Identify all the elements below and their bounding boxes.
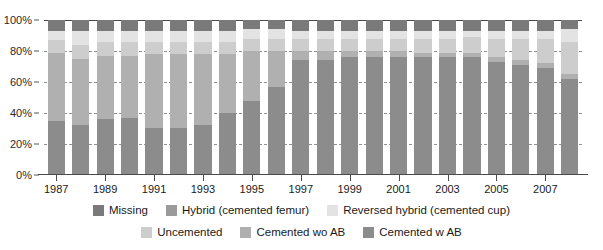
y-tick-mark: [34, 113, 39, 114]
bar-column: [170, 20, 187, 175]
y-tick-label: 40%: [10, 108, 32, 119]
bars-container: [44, 20, 582, 175]
bar-column: [268, 20, 285, 175]
x-tick-label: 1995: [240, 183, 264, 195]
bar-segment: [561, 29, 578, 41]
legend-row: MissingHybrid (cemented femur)Reversed h…: [0, 199, 603, 221]
bar-segment: [243, 39, 260, 51]
bar-column: [145, 20, 162, 175]
bar-segment: [414, 57, 431, 175]
bar-segment: [48, 40, 65, 52]
bar-segment: [243, 101, 260, 175]
legend-label: Missing: [109, 204, 148, 216]
bar-segment: [537, 68, 554, 175]
bar-segment: [243, 29, 260, 38]
bar-segment: [219, 113, 236, 175]
x-tick-mark: [301, 175, 302, 181]
bar-segment: [366, 57, 383, 175]
x-tick-mark: [154, 175, 155, 181]
bar-segment: [390, 57, 407, 175]
legend-item[interactable]: Uncemented: [141, 226, 222, 238]
bar-column: [121, 20, 138, 175]
x-tick-mark: [350, 175, 351, 181]
x-tick-label: 1989: [93, 183, 117, 195]
bar-segment: [170, 54, 187, 128]
bar-column: [439, 20, 456, 175]
bar-segment: [537, 39, 554, 64]
bar-segment: [463, 20, 480, 31]
bar-segment: [48, 31, 65, 40]
bar-segment: [414, 20, 431, 31]
bar-segment: [414, 31, 431, 39]
bar-column: [219, 20, 236, 175]
bar-segment: [97, 31, 114, 42]
x-tick-label: 2005: [484, 183, 508, 195]
bar-segment: [194, 31, 211, 42]
bar-column: [488, 20, 505, 175]
x-tick-label: 1987: [44, 183, 68, 195]
bar-segment: [341, 20, 358, 31]
x-tick-mark: [252, 175, 253, 181]
bar-segment: [268, 51, 285, 87]
legend-swatch-icon: [166, 205, 177, 216]
bar-segment: [439, 31, 456, 39]
x-axis: 1987198919911993199519971999200120032005…: [44, 175, 582, 201]
y-tick-mark: [34, 51, 39, 52]
bar-segment: [145, 54, 162, 128]
plot-area: [44, 20, 582, 175]
bar-segment: [243, 20, 260, 29]
bar-segment: [292, 60, 309, 175]
x-tick-mark: [496, 175, 497, 181]
x-tick-mark: [203, 175, 204, 181]
bar-segment: [145, 20, 162, 31]
bar-column: [194, 20, 211, 175]
bar-segment: [512, 39, 529, 61]
x-tick-mark: [545, 175, 546, 181]
legend-item[interactable]: Missing: [93, 204, 148, 216]
bar-segment: [268, 20, 285, 29]
bar-segment: [121, 31, 138, 42]
bar-segment: [145, 128, 162, 175]
y-tick-mark: [34, 82, 39, 83]
bar-segment: [414, 39, 431, 53]
x-tick-mark: [399, 175, 400, 181]
legend-item[interactable]: Reversed hybrid (cemented cup): [327, 204, 510, 216]
bar-segment: [97, 20, 114, 31]
bar-segment: [366, 39, 383, 51]
bar-column: [48, 20, 65, 175]
bar-segment: [561, 42, 578, 75]
bar-segment: [561, 20, 578, 29]
bar-column: [341, 20, 358, 175]
bar-segment: [219, 54, 236, 113]
bar-segment: [121, 20, 138, 31]
x-tick-mark: [56, 175, 57, 181]
bar-column: [97, 20, 114, 175]
x-tick-label: 1999: [337, 183, 361, 195]
bar-segment: [219, 31, 236, 42]
bar-segment: [194, 42, 211, 54]
bar-segment: [463, 37, 480, 53]
bar-segment: [317, 39, 334, 51]
legend-item[interactable]: Cemented wo AB: [240, 226, 345, 238]
bar-segment: [145, 42, 162, 54]
bar-segment: [292, 39, 309, 51]
bar-segment: [561, 79, 578, 175]
bar-segment: [390, 31, 407, 39]
bar-segment: [48, 121, 65, 175]
bar-segment: [194, 54, 211, 125]
bar-segment: [317, 51, 334, 60]
bar-segment: [488, 39, 505, 58]
bar-segment: [292, 31, 309, 39]
y-tick-mark: [34, 144, 39, 145]
legend-item[interactable]: Cemented w AB: [363, 226, 461, 238]
bar-segment: [512, 31, 529, 39]
y-tick-label: 100%: [4, 15, 32, 26]
bar-segment: [121, 56, 138, 118]
bar-column: [414, 20, 431, 175]
bar-segment: [145, 31, 162, 42]
legend-item[interactable]: Hybrid (cemented femur): [166, 204, 309, 216]
y-tick-label: 80%: [10, 46, 32, 57]
bar-segment: [317, 60, 334, 175]
bar-segment: [219, 42, 236, 54]
legend-label: Cemented wo AB: [256, 226, 345, 238]
